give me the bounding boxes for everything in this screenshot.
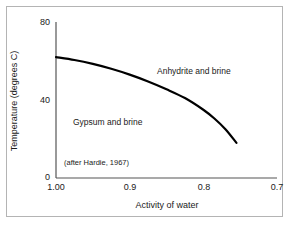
chart-figure: 80 40 0 1.00 0.9 0.8 0.7 Temperature (de… [0,0,295,226]
y-tick-label-0: 0 [28,172,50,182]
plot-area [0,0,295,226]
x-tick-label-0-8: 0.8 [186,182,222,192]
gypsum-region-label: Gypsum and brine [73,117,142,127]
anhydrite-region-label: Anhydrite and brine [157,66,231,76]
source-note: (after Hardie, 1967) [64,158,129,167]
x-tick-label-1-00: 1.00 [38,182,74,192]
y-axis-title: Temperature (degrees C) [9,36,19,166]
y-tick-label-80: 80 [28,17,50,27]
x-tick-label-0-7: 0.7 [259,182,295,192]
x-tick-label-0-9: 0.9 [112,182,148,192]
x-axis-title: Activity of water [56,200,278,210]
y-tick-label-40: 40 [28,95,50,105]
